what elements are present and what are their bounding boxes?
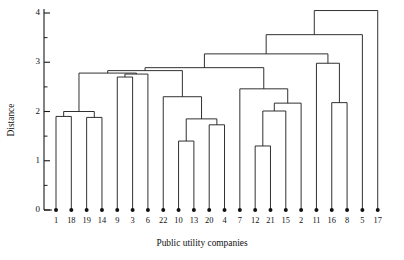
y-tick-label-2: 2 [36,106,41,116]
leaf-label-4: 4 [222,216,227,225]
link-m6 [79,73,136,111]
leaf-marker-11 [314,208,318,212]
leaf-marker-8 [345,208,349,212]
leaf-marker-20 [207,208,211,212]
leaf-labels: 11819149362210132047122115211168517 [54,216,382,225]
leaf-marker-9 [115,208,119,212]
y-tick-label-4: 4 [36,7,41,17]
link-m15 [240,89,288,210]
link-m9 [186,119,217,141]
leaf-marker-3 [131,208,135,212]
leaf-label-19: 19 [82,216,90,225]
leaf-label-20: 20 [205,216,213,225]
leaf-label-7: 7 [238,216,242,225]
leaf-label-11: 11 [312,216,320,225]
leaf-marker-18 [69,208,73,212]
y-tick-label-0: 0 [36,204,41,214]
leaf-label-5: 5 [360,216,364,225]
leaf-marker-17 [376,208,380,212]
y-axis [44,9,52,210]
link-m21 [314,11,377,210]
link-m18 [316,63,339,210]
x-axis-title: Public utility companies [156,238,247,248]
leaf-label-2: 2 [299,216,303,225]
leaf-label-9: 9 [115,216,119,225]
leaf-marker-10 [177,208,181,212]
leaf-marker-1 [54,208,58,212]
link-m13 [263,111,286,210]
leaf-label-10: 10 [174,216,182,225]
dendrogram-links [56,11,378,210]
leaf-marker-2 [299,208,303,212]
y-tick-label-1: 1 [36,155,41,165]
y-axis-title: Distance [6,104,16,137]
leaf-markers [54,208,380,212]
leaf-marker-15 [284,208,288,212]
link-m17 [332,103,347,210]
leaf-marker-21 [268,208,272,212]
link-m8 [209,125,224,210]
leaf-label-8: 8 [345,216,349,225]
leaf-marker-4 [223,208,227,212]
y-axis-tick-labels: 01234 [36,7,41,214]
leaf-label-1: 1 [54,216,58,225]
link-m10 [163,97,201,210]
leaf-marker-13 [192,208,196,212]
y-tick-label-3: 3 [36,56,41,66]
leaf-marker-19 [85,208,89,212]
leaf-marker-16 [330,208,334,212]
leaf-label-14: 14 [98,216,107,225]
leaf-marker-14 [100,208,104,212]
leaf-label-12: 12 [251,216,259,225]
leaf-marker-6 [146,208,150,212]
link-m20 [266,35,362,210]
link-m4 [117,77,132,210]
link-m19 [204,54,328,68]
leaf-label-21: 21 [266,216,274,225]
leaf-label-16: 16 [328,216,336,225]
leaf-marker-7 [238,208,242,212]
link-m2 [87,117,102,210]
link-m7 [179,141,194,210]
leaf-label-6: 6 [146,216,150,225]
link-m14 [274,103,301,210]
leaf-label-18: 18 [67,216,75,225]
leaf-label-3: 3 [131,216,135,225]
leaf-label-15: 15 [282,216,290,225]
link-m1 [56,116,71,210]
leaf-marker-5 [360,208,364,212]
leaf-label-22: 22 [159,216,167,225]
dendrogram-figure: 01234 1181914936221013204712211521116851… [0,0,404,260]
leaf-label-13: 13 [190,216,198,225]
leaf-marker-12 [253,208,257,212]
link-m11 [108,71,183,97]
leaf-marker-22 [161,208,165,212]
dendrogram-plot: 01234 1181914936221013204712211521116851… [0,0,404,260]
leaf-label-17: 17 [374,216,382,225]
link-m12 [255,146,270,210]
link-m5 [125,74,148,210]
